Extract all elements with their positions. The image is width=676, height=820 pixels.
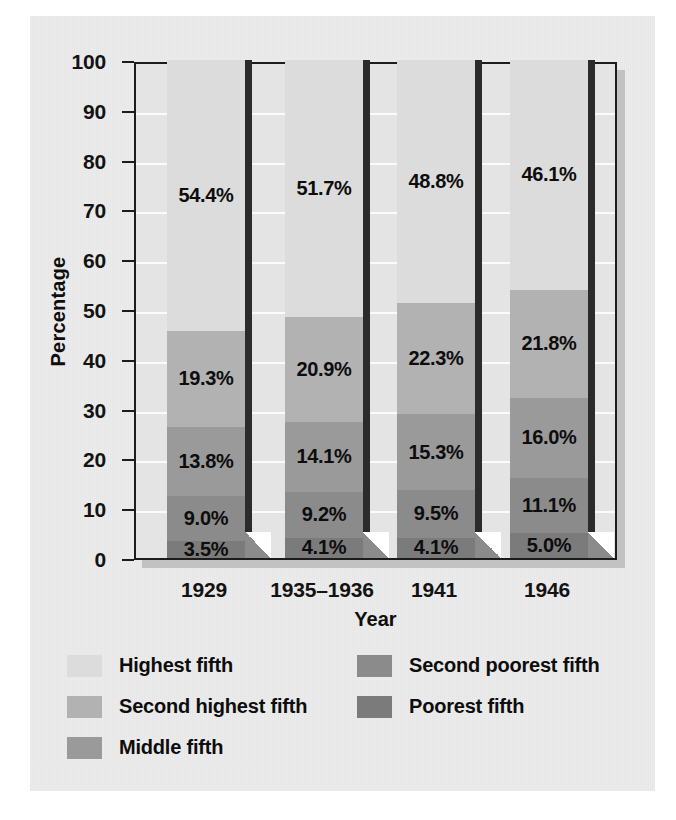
y-axis-tick-label: 0	[46, 548, 106, 572]
bar-segment-value-label: 13.8%	[178, 450, 233, 473]
x-axis-title: Year	[134, 608, 617, 631]
bar-segment-value-label: 4.1%	[302, 536, 346, 559]
bar-segment-value-label: 15.3%	[408, 441, 463, 464]
bar-segment[interactable]: 9.2%	[285, 492, 363, 538]
bar-segment-value-label: 48.8%	[408, 170, 463, 193]
bar-side-shading	[588, 60, 595, 558]
bar-base-shadow	[245, 532, 271, 558]
y-axis-tick	[122, 161, 134, 163]
figure-canvas: Percentage 0102030405060708090100 54.4%1…	[0, 0, 676, 820]
plot-inner: 54.4%19.3%13.8%9.0%3.5%51.7%20.9%14.1%9.…	[136, 64, 615, 558]
bar-segment[interactable]: 9.5%	[397, 490, 475, 537]
y-axis-tick	[122, 360, 134, 362]
bar-segment[interactable]: 13.8%	[167, 427, 245, 496]
bar-segment[interactable]: 20.9%	[285, 317, 363, 421]
legend-item-label: Second poorest fifth	[409, 654, 599, 677]
bar-segment-value-label: 4.1%	[414, 536, 458, 559]
bar-base-shadow	[588, 532, 614, 558]
bar-segment-value-label: 16.0%	[521, 426, 576, 449]
y-axis-tick-label: 100	[46, 50, 106, 74]
legend-item[interactable]: Poorest fifth	[357, 686, 599, 727]
y-axis-tick-label: 40	[46, 348, 106, 372]
y-axis-tick-label: 90	[46, 99, 106, 123]
bar-side-shading	[475, 60, 482, 558]
legend-column-right: Second poorest fifthPoorest fifth	[357, 645, 599, 727]
bar-segment[interactable]: 46.1%	[510, 60, 588, 290]
y-axis-tick	[122, 111, 134, 113]
y-axis-tick-label: 70	[46, 199, 106, 223]
bar-segment[interactable]: 51.7%	[285, 60, 363, 317]
y-axis-tick	[122, 260, 134, 262]
y-axis-tick-label: 20	[46, 448, 106, 472]
bar-segment-value-label: 5.0%	[527, 534, 571, 557]
x-axis-tick-label: 1946	[462, 578, 632, 602]
bar-segment[interactable]: 48.8%	[397, 60, 475, 303]
legend-column-left: Highest fifthSecond highest fifthMiddle …	[67, 645, 307, 768]
y-axis-tick-label: 80	[46, 149, 106, 173]
bar-segment[interactable]: 16.0%	[510, 398, 588, 478]
legend-color-swatch	[357, 696, 392, 718]
legend-item[interactable]: Second poorest fifth	[357, 645, 599, 686]
bar-segment-value-label: 9.0%	[184, 507, 228, 530]
bar-segment[interactable]: 9.0%	[167, 496, 245, 541]
y-axis-tick-label: 30	[46, 398, 106, 422]
bar-segment[interactable]: 15.3%	[397, 414, 475, 490]
bar-segment-value-label: 46.1%	[521, 163, 576, 186]
bar-segment[interactable]: 14.1%	[285, 422, 363, 492]
y-axis-tick	[122, 509, 134, 511]
legend-color-swatch	[67, 655, 102, 677]
legend-item-label: Second highest fifth	[119, 695, 307, 718]
y-axis-tick	[122, 61, 134, 63]
bar-segment-value-label: 19.3%	[178, 367, 233, 390]
bar-base-shadow	[475, 532, 501, 558]
bar-base-shadow	[363, 532, 389, 558]
bar-side-shading	[363, 60, 370, 558]
legend-color-swatch	[67, 696, 102, 718]
bar-1941[interactable]: 48.8%22.3%15.3%9.5%4.1%	[397, 60, 475, 558]
bar-segment-value-label: 21.8%	[521, 332, 576, 355]
legend-item[interactable]: Middle fifth	[67, 727, 307, 768]
bar-segment-value-label: 20.9%	[296, 358, 351, 381]
legend-item[interactable]: Highest fifth	[67, 645, 307, 686]
bar-segment[interactable]: 21.8%	[510, 290, 588, 399]
bar-segment-value-label: 14.1%	[296, 445, 351, 468]
y-axis-tick-label: 50	[46, 299, 106, 323]
bar-1946[interactable]: 46.1%21.8%16.0%11.1%5.0%	[510, 60, 588, 558]
bar-segment[interactable]: 3.5%	[167, 541, 245, 558]
legend-color-swatch	[357, 655, 392, 677]
bar-segment[interactable]: 54.4%	[167, 60, 245, 331]
bar-segment[interactable]: 22.3%	[397, 303, 475, 414]
bar-1935-1936[interactable]: 51.7%20.9%14.1%9.2%4.1%	[285, 60, 363, 558]
bar-1929[interactable]: 54.4%19.3%13.8%9.0%3.5%	[167, 60, 245, 558]
bar-segment-value-label: 3.5%	[184, 538, 228, 561]
bar-segment-value-label: 22.3%	[408, 347, 463, 370]
bar-side-shading	[245, 60, 252, 558]
bar-segment[interactable]: 5.0%	[510, 533, 588, 558]
y-axis-tick-label: 60	[46, 249, 106, 273]
bar-segment[interactable]: 19.3%	[167, 331, 245, 427]
bar-segment-value-label: 54.4%	[178, 184, 233, 207]
bar-segment[interactable]: 11.1%	[510, 478, 588, 533]
bar-segment-value-label: 11.1%	[522, 494, 576, 517]
bar-segment[interactable]: 4.1%	[285, 538, 363, 558]
legend-item[interactable]: Second highest fifth	[67, 686, 307, 727]
y-axis-tick	[122, 210, 134, 212]
legend-color-swatch	[67, 737, 102, 759]
bar-segment-value-label: 51.7%	[296, 177, 351, 200]
y-axis-tick	[122, 559, 134, 561]
legend-item-label: Middle fifth	[119, 736, 223, 759]
y-axis-tick-label: 10	[46, 498, 106, 522]
plot-area: 54.4%19.3%13.8%9.0%3.5%51.7%20.9%14.1%9.…	[134, 62, 617, 560]
bar-segment-value-label: 9.2%	[302, 503, 346, 526]
legend-item-label: Highest fifth	[119, 654, 233, 677]
bar-segment-value-label: 9.5%	[414, 502, 458, 525]
y-axis-tick	[122, 410, 134, 412]
legend-item-label: Poorest fifth	[409, 695, 524, 718]
bar-segment[interactable]: 4.1%	[397, 538, 475, 558]
y-axis-tick	[122, 459, 134, 461]
y-axis-tick	[122, 310, 134, 312]
